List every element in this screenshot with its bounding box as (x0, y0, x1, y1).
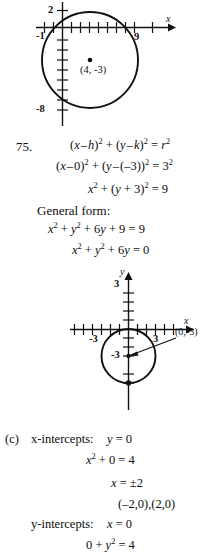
part-c-marker: (c) (5, 432, 19, 447)
general-form-heading: General form: (37, 203, 110, 219)
figure-top-circle-graph: 2 -1 9 -8 x (4, -3) (0, 0, 208, 128)
x-intercepts-condition: y = 0 (107, 432, 132, 447)
y-tick-label-minus-8: -8 (36, 103, 45, 114)
callout-arrowhead (129, 352, 139, 357)
y-intercepts-label: y-intercepts: (31, 517, 93, 532)
equation-general-form-expanded: x2 + y2 + 6y + 9 = 9 (48, 222, 145, 237)
y-intercepts-step-1: 0 + y2 = 4 (86, 538, 135, 553)
y-axis-arrow (125, 272, 133, 280)
center-point-label: (4, -3) (80, 64, 106, 75)
x-tick-label-minus-3: -3 (89, 333, 98, 344)
center-point-dot (88, 58, 93, 63)
x-intercepts-step-1: x2 + 0 = 4 (86, 453, 135, 468)
x-tick-label-3: 3 (153, 333, 158, 344)
x-intercepts-result: (–2,0),(2,0) (118, 497, 175, 512)
equation-substituted: (x – 0)2 + (y – (–3))2 = 32 (56, 159, 173, 174)
figure-bottom-svg (0, 262, 208, 412)
x-axis-label: x (166, 13, 170, 24)
callout-label-0-minus-3: (0,-3) (175, 326, 198, 337)
equation-standard-form-general: (x – h)2 + (y – k)2 = r2 (70, 138, 170, 153)
y-tick-label-3: 3 (114, 278, 119, 289)
y-intercepts-condition: x = 0 (107, 517, 132, 532)
figure-bottom-circle-graph: 3 -3 3 -3 x y (0,-3) (0, 262, 208, 412)
equation-simplified: x2 + (y + 3)2 = 9 (88, 182, 168, 197)
y-tick-label-2: 2 (48, 4, 53, 15)
x-tick-label-minus-1: -1 (36, 30, 45, 41)
x-intercepts-label: x-intercepts: (31, 432, 93, 447)
y-intercepts-label-text: y-intercepts: (31, 517, 93, 531)
x-intercepts-step-2: x = ±2 (111, 476, 143, 491)
x-intercepts-label-text: x-intercepts: (31, 432, 93, 446)
x-tick-label-9: 9 (134, 31, 139, 42)
y-axis-label: y (120, 266, 124, 277)
y-tick-label-minus-3: -3 (111, 349, 120, 360)
x-axis-label: x (184, 315, 188, 326)
equation-general-form-final: x2 + y2 + 6y = 0 (72, 243, 149, 258)
problem-number: 75. (16, 139, 32, 155)
x-axis-arrow (168, 24, 176, 32)
